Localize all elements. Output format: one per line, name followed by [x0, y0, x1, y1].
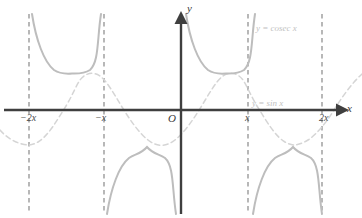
cosec-curve-group: [32, 14, 322, 214]
cosec-branch-1: [32, 14, 101, 74]
x-axis-label: x: [347, 103, 352, 114]
cosec-curve-label: y = cosec x: [256, 24, 297, 33]
y-axis-group: [175, 11, 188, 214]
cosec-branch-2: [107, 147, 176, 214]
plot-canvas: [0, 0, 362, 218]
cosec-branch-3: [186, 14, 255, 74]
cosec-branch-4: [253, 147, 322, 214]
tick-label-neg-2pi: −2x: [20, 113, 36, 123]
sin-curve-label: y = sin x: [252, 99, 283, 108]
y-axis-label: y: [187, 3, 192, 14]
tick-label-2pi: 2x: [319, 113, 328, 123]
cosec-sin-graph-figure: y x O −2x −x x 2x y = cosec x y = sin x: [0, 0, 362, 218]
tick-label-neg-pi: −x: [95, 113, 106, 123]
x-axis-group: [4, 104, 349, 117]
y-axis-arrowhead: [175, 11, 188, 24]
origin-label: O: [168, 113, 176, 124]
tick-label-pi: x: [245, 113, 249, 123]
